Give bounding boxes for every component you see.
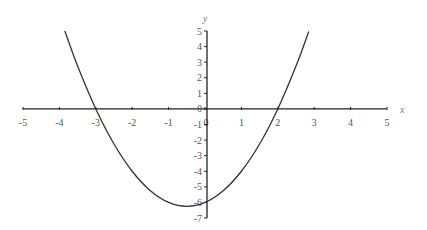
parabola-curve <box>65 31 309 206</box>
x-tick-label: 1 <box>239 117 244 128</box>
y-tick-label: -4 <box>194 166 202 177</box>
x-tick-label: -3 <box>92 117 100 128</box>
y-tick-label: 4 <box>197 41 202 52</box>
x-tick-label: -1 <box>164 117 172 128</box>
y-tick-label: 5 <box>197 26 202 37</box>
y-tick-label: -3 <box>194 150 202 161</box>
x-tick-label: 2 <box>275 117 280 128</box>
y-tick-label: -2 <box>194 135 202 146</box>
y-tick-label: -6 <box>194 197 202 208</box>
y-tick-label: -5 <box>194 181 202 192</box>
y-tick-label: -7 <box>194 213 202 224</box>
y-tick-label: 1 <box>197 88 202 99</box>
plot-area <box>65 31 309 206</box>
y-tick-label: 0 <box>197 103 202 114</box>
x-axis-title: x <box>399 104 405 115</box>
x-tick-label: -4 <box>55 117 63 128</box>
y-axis: 543210-1-2-3-4-5-6-7 <box>194 26 207 224</box>
x-tick-label: 0 <box>204 117 209 128</box>
y-tick-label: 3 <box>197 57 202 68</box>
y-tick-label: -1 <box>194 119 202 130</box>
y-tick-label: 2 <box>197 72 202 83</box>
x-tick-label: 3 <box>312 117 317 128</box>
x-tick-label: 5 <box>385 117 390 128</box>
parabola-chart: -5-4-3-2-1012345 543210-1-2-3-4-5-6-7 x … <box>0 0 427 230</box>
x-tick-label: 4 <box>348 117 353 128</box>
x-tick-label: -2 <box>128 117 136 128</box>
x-tick-label: -5 <box>19 117 27 128</box>
y-axis-title: y <box>202 13 208 24</box>
